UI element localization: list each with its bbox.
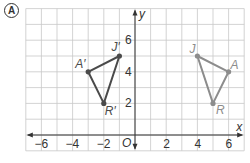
y-tick-label: 4 xyxy=(125,65,132,79)
vertex-label: R′ xyxy=(105,104,117,118)
coordinate-plane: xyO−6−4−2246246 J′A′R′JAR xyxy=(0,0,250,163)
tick-labels: xyO−6−4−2246246 xyxy=(34,7,243,151)
vertex-label: J′ xyxy=(110,40,120,54)
y-tick-label: 6 xyxy=(125,33,132,47)
y-axis-up-arrow-icon xyxy=(133,10,138,16)
origin-label: O xyxy=(122,136,131,150)
vertex-label: J xyxy=(188,42,196,56)
y-axis-down-arrow-icon xyxy=(133,144,138,150)
x-tick-label: −6 xyxy=(34,137,48,151)
x-axis-label: x xyxy=(235,120,243,134)
vertex-point xyxy=(117,53,122,58)
vertex-label: A′ xyxy=(74,57,86,71)
triangles: J′A′R′JAR xyxy=(74,40,238,118)
y-axis-label: y xyxy=(138,7,146,21)
vertex-point xyxy=(195,53,200,58)
x-tick-label: 4 xyxy=(194,137,201,151)
vertex-label: A xyxy=(230,58,239,72)
x-axis-left-arrow-icon xyxy=(27,133,33,138)
x-tick-label: 2 xyxy=(163,137,170,151)
axes xyxy=(27,10,243,150)
x-tick-label: −2 xyxy=(97,137,111,151)
x-tick-label: −4 xyxy=(66,137,80,151)
x-tick-label: 6 xyxy=(226,137,233,151)
vertex-label: R xyxy=(216,103,225,117)
vertex-point xyxy=(210,101,215,106)
y-tick-label: 2 xyxy=(125,96,132,110)
vertex-point xyxy=(86,69,91,74)
